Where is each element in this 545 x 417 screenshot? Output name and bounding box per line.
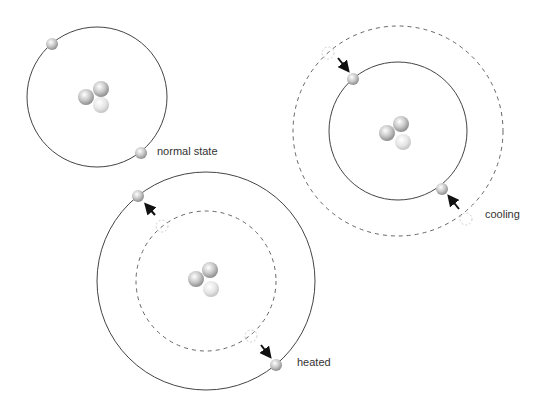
nucleus: [379, 116, 411, 150]
atom-diagram: [0, 0, 545, 417]
dashed-inner-orbit: [136, 211, 276, 351]
label-cooling: cooling: [485, 208, 520, 220]
electron: [132, 190, 144, 202]
atom-heated: [97, 172, 315, 390]
electron: [436, 183, 448, 195]
electron: [135, 147, 147, 159]
label-normal-state: normal state: [157, 145, 218, 157]
nucleus: [188, 262, 219, 297]
electron: [46, 38, 58, 50]
orbit: [97, 172, 315, 390]
electron: [347, 73, 359, 85]
arrow-icon: [148, 207, 155, 215]
nucleus: [78, 81, 109, 113]
electron: [270, 359, 282, 371]
atom-cooling: [293, 26, 503, 236]
arrow-icon: [451, 199, 459, 209]
arrow-icon: [261, 345, 268, 354]
label-heated: heated: [297, 356, 331, 368]
atom-normal-state: [27, 27, 167, 167]
ghost-electron: [245, 330, 257, 342]
arrow-icon: [338, 58, 346, 68]
